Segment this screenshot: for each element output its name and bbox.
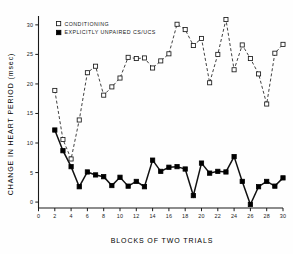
data-point [167,165,171,169]
y-tick-label: 25 [27,51,33,57]
x-tick-label: 4 [69,213,72,219]
data-point [142,56,146,60]
conditioning-markers [53,17,285,161]
data-point [102,93,106,97]
data-point [273,51,277,55]
legend-label-conditioning: CONDITIONING [65,21,110,27]
data-point [183,167,187,171]
data-point [118,76,122,80]
data-point [183,28,187,32]
x-tick-label: 30 [280,213,286,219]
y-tick-label: 10 [27,140,33,146]
data-point [216,169,220,173]
data-point [69,157,73,161]
data-point [208,171,212,175]
data-point [191,193,195,197]
x-tick-label: 20 [198,213,204,219]
data-point [159,59,163,63]
data-point [151,66,155,70]
data-point [126,184,130,188]
x-tick-label: 14 [149,213,155,219]
x-axis-title: BLOCKS OF TWO TRIALS [111,237,214,244]
x-tick-label: 2 [53,213,56,219]
x-tick-label: 8 [102,213,105,219]
data-point [61,149,65,153]
y-tick-label: 20 [27,81,33,87]
x-tick-label: 18 [182,213,188,219]
data-point [224,170,228,174]
y-axis-title: CHANGE IN HEART PERIOD (msec) [7,53,15,196]
data-point [199,36,203,40]
x-tick-label: 22 [215,213,221,219]
x-tick-label: 26 [247,213,253,219]
data-point [265,102,269,106]
data-point [248,202,252,206]
data-point [94,64,98,68]
data-point [265,179,269,183]
data-point [134,56,138,60]
plot-axes [35,16,283,211]
data-point [77,185,81,189]
data-point [281,176,285,180]
series-unpaired [53,128,286,207]
data-point [191,43,195,47]
y-tick-label: 5 [30,170,33,176]
data-point [134,179,138,183]
y-tick-label: 0 [30,199,33,205]
data-point [175,22,179,26]
data-point [118,175,122,179]
x-tick-label: 24 [231,213,237,219]
y-axis-tick-labels: 051015202530 [27,22,33,205]
data-point [208,81,212,85]
x-axis-tick-labels: 024681012141618202224262830 [37,213,286,219]
series-conditioning [53,17,285,161]
x-tick-label: 16 [166,213,172,219]
data-point [110,183,114,187]
data-point [256,185,260,189]
data-point [53,128,57,132]
data-point [150,158,154,162]
data-point [93,173,97,177]
data-point [142,185,146,189]
line-chart: 051015202530 024681012141618202224262830… [0,0,293,254]
data-point [232,154,236,158]
data-point [175,165,179,169]
data-point [102,175,106,179]
data-point [159,169,163,173]
legend-label-unpaired: EXPLICITLY UNPAIRED CS/UCS [65,29,156,35]
y-tick-label: 15 [27,110,33,116]
legend-marker-unpaired [57,30,61,34]
x-tick-label: 6 [86,213,89,219]
data-point [216,52,220,56]
data-point [248,56,252,60]
data-point [126,55,130,59]
data-point [167,52,171,56]
legend-marker-conditioning [57,22,61,26]
data-point [85,170,89,174]
x-tick-label: 28 [263,213,269,219]
data-point [232,68,236,72]
data-point [273,184,277,188]
data-point [281,42,285,46]
data-point [69,165,73,169]
data-point [199,161,203,165]
unpaired-markers [53,128,286,207]
data-point [85,71,89,75]
data-point [224,17,228,21]
data-point [61,137,65,141]
data-point [110,85,114,89]
data-point [240,179,244,183]
chart-figure: 051015202530 024681012141618202224262830… [0,0,293,254]
x-tick-label: 10 [117,213,123,219]
x-tick-label: 0 [37,213,40,219]
chart-legend: CONDITIONING EXPLICITLY UNPAIRED CS/UCS [57,21,156,36]
x-tick-label: 12 [133,213,139,219]
data-point [257,72,261,76]
y-tick-label: 30 [27,22,33,28]
data-point [77,118,81,122]
conditioning-line [55,20,283,159]
data-point [240,43,244,47]
data-point [53,88,57,92]
